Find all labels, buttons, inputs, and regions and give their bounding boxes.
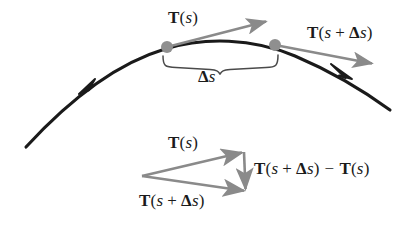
vector-symbol-T-1: T <box>254 159 266 178</box>
variable-s: s <box>156 191 163 210</box>
delta-symbol: Δ <box>181 191 192 210</box>
paren-close-2: ) <box>364 159 370 178</box>
triangle-difference-vector <box>244 152 246 189</box>
delta-symbol: Δ <box>349 23 360 42</box>
variable-s-2: s <box>357 159 364 178</box>
variable-s-1: s <box>271 159 278 178</box>
label-tangent-at-s-plus-ds-triangle: T(s+Δs) <box>139 192 205 209</box>
vector-symbol-T: T <box>307 23 319 42</box>
variable-s-2: s <box>360 23 367 42</box>
triangle-tangent-at-s-plus-ds <box>142 176 244 191</box>
delta-symbol: Δ <box>198 67 209 86</box>
paren-close: ) <box>192 133 198 152</box>
vector-symbol-T: T <box>139 191 151 210</box>
vector-symbol-T-2: T <box>339 159 351 178</box>
arc-length-brace <box>163 55 278 74</box>
label-tangent-at-s-curve: T(s) <box>168 9 198 26</box>
label-tangent-at-s-plus-ds-curve: T(s+Δs) <box>307 24 373 41</box>
variable-s: s <box>324 23 331 42</box>
paren-close: ) <box>199 191 205 210</box>
variable-s-1b: s <box>307 159 314 178</box>
paren-close: ) <box>367 23 373 42</box>
triangle-tangent-at-s <box>142 153 242 176</box>
paren-close: ) <box>192 8 198 27</box>
tangent-vector-diagram: T(s) T(s+Δs) Δs T(s) T(s+Δs) T(s+Δs)−T(s… <box>0 0 419 229</box>
minus-operator: − <box>325 159 335 178</box>
label-arc-length-delta-s: Δs <box>198 68 216 85</box>
curve-direction-arrowhead-right <box>331 64 352 79</box>
label-tangent-at-s-triangle: T(s) <box>168 134 198 151</box>
plus-operator: + <box>167 191 177 210</box>
variable-s-2: s <box>192 191 199 210</box>
plus-operator: + <box>282 159 292 178</box>
delta-symbol: Δ <box>296 159 307 178</box>
vector-triangle <box>142 152 246 191</box>
vector-symbol-T: T <box>168 8 180 27</box>
point-at-s <box>161 41 173 53</box>
vector-symbol-T: T <box>168 133 180 152</box>
label-tangent-difference: T(s+Δs)−T(s) <box>254 160 370 177</box>
variable-s: s <box>209 67 216 86</box>
plus-operator: + <box>335 23 345 42</box>
point-at-s-plus-ds <box>269 39 281 51</box>
paren-close-1: ) <box>314 159 320 178</box>
